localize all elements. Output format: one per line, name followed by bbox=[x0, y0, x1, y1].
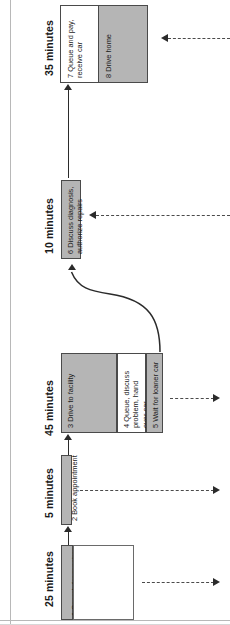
step-label-3: 3 Drive to facility bbox=[66, 374, 75, 428]
forward-dash-line-1 bbox=[170, 398, 214, 399]
phase-label-5-minutes: 5 minutes bbox=[44, 468, 56, 518]
forward-dash-line-2 bbox=[80, 490, 214, 491]
connector-arrowhead-2-to-3 bbox=[64, 434, 72, 440]
connector-arrowhead-5-to-6 bbox=[68, 264, 76, 270]
step-box-1-extent bbox=[73, 545, 134, 620]
phase-label-25-minutes: 25 minutes bbox=[44, 551, 56, 607]
diagram-canvas: 35 minutes 7 Queue and pay, receive car … bbox=[0, 0, 230, 625]
connector-arrowhead-1-to-2 bbox=[64, 526, 72, 532]
connector-curve-5-to-6 bbox=[0, 0, 230, 625]
step-label-5: 5 Wait for loaner car bbox=[151, 362, 160, 428]
connector-line-1-to-2 bbox=[68, 532, 70, 546]
forward-arrowhead-right-1 bbox=[213, 394, 220, 402]
forward-arrowhead-right-2 bbox=[213, 486, 220, 494]
phase-label-45-minutes: 45 minutes bbox=[44, 380, 56, 436]
step-label-2: 2 Book appointment bbox=[70, 455, 79, 521]
forward-dash-line-3 bbox=[142, 582, 214, 583]
forward-arrowhead-right-3 bbox=[213, 578, 220, 586]
